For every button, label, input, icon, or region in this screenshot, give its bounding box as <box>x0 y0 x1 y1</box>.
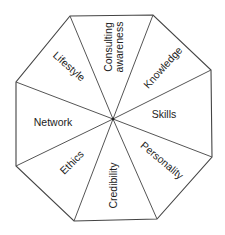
center-point <box>112 118 115 121</box>
label-line: awareness <box>114 17 125 77</box>
segment-label-credibility: Credibility <box>108 158 119 214</box>
segment-label-consulting-awareness: Consulting awareness <box>103 17 125 77</box>
octagon-diagram: Consulting awareness Knowledge Skills Pe… <box>0 0 225 235</box>
label-line: Network <box>30 117 76 128</box>
label-line: Skills <box>146 109 182 120</box>
segment-label-skills: Skills <box>146 109 182 120</box>
label-line: Credibility <box>108 158 119 214</box>
segment-label-network: Network <box>30 117 76 128</box>
